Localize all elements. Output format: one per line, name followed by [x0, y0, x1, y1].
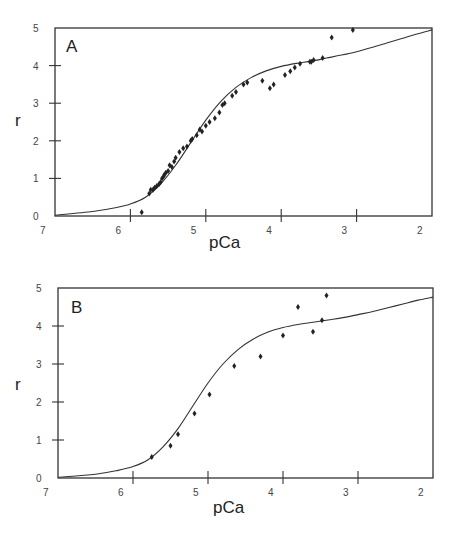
- x-tick-label: 2: [417, 225, 423, 236]
- x-tick-label: 6: [115, 225, 121, 236]
- x-tick-label: 4: [268, 487, 274, 498]
- data-point: [330, 34, 334, 40]
- fit-curve: [58, 297, 433, 477]
- data-point: [320, 317, 324, 323]
- x-axis-ticks: 765432: [43, 471, 424, 498]
- chart-panel-a: 012345 765432 A pCa r: [15, 23, 432, 252]
- y-axis-ticks: 012345: [36, 283, 64, 484]
- data-point: [150, 454, 154, 460]
- y-tick-label: 2: [36, 397, 42, 408]
- plot-frame: [58, 288, 433, 478]
- y-tick-label: 0: [33, 211, 39, 222]
- data-point: [176, 431, 180, 437]
- chart-panel-b: 012345 765432 B pCa r: [15, 283, 433, 517]
- x-tick-label: 5: [193, 487, 199, 498]
- y-tick-label: 1: [36, 435, 42, 446]
- data-point: [325, 293, 329, 299]
- x-tick-label: 3: [342, 225, 348, 236]
- x-tick-label: 5: [191, 225, 197, 236]
- x-tick-label: 3: [343, 487, 349, 498]
- data-point: [268, 85, 272, 91]
- y-tick-label: 5: [33, 23, 39, 34]
- data-point: [195, 132, 199, 138]
- data-points: [140, 27, 355, 215]
- x-tick-label: 6: [118, 487, 124, 498]
- y-tick-label: 1: [33, 173, 39, 184]
- x-axis-title: pCa: [209, 233, 241, 252]
- y-tick-label: 3: [36, 359, 42, 370]
- data-point: [259, 353, 263, 359]
- data-point: [234, 89, 238, 95]
- data-point: [260, 78, 264, 84]
- data-point: [272, 81, 276, 87]
- data-point: [208, 391, 212, 397]
- x-tick-label: 4: [266, 225, 272, 236]
- data-point: [283, 72, 287, 78]
- data-point: [208, 119, 212, 125]
- data-point: [204, 123, 208, 129]
- data-point: [288, 68, 292, 74]
- y-axis-title: r: [15, 375, 21, 394]
- figure: 012345 765432 A pCa r 012345 765432 B pC…: [0, 0, 454, 534]
- data-point: [293, 64, 297, 70]
- data-point: [242, 81, 246, 87]
- x-tick-label: 7: [43, 487, 49, 498]
- y-tick-label: 2: [33, 136, 39, 147]
- fit-curve: [55, 30, 432, 215]
- data-point: [230, 93, 234, 99]
- y-axis-title: r: [15, 111, 21, 130]
- plot-frame: [55, 28, 432, 216]
- data-point: [217, 110, 221, 116]
- data-point: [193, 410, 197, 416]
- data-point: [321, 55, 325, 61]
- y-tick-label: 3: [33, 98, 39, 109]
- data-point: [296, 304, 300, 310]
- data-point: [298, 61, 302, 67]
- data-point: [213, 115, 217, 121]
- x-tick-label: 2: [418, 487, 424, 498]
- data-point: [169, 443, 173, 449]
- data-point: [281, 333, 285, 339]
- data-point: [140, 209, 144, 215]
- data-point: [185, 143, 189, 149]
- data-point: [311, 329, 315, 335]
- y-tick-label: 5: [36, 283, 42, 294]
- panel-label: A: [66, 37, 78, 56]
- x-axis-ticks: 765432: [40, 209, 423, 236]
- x-axis-title: pCa: [213, 498, 245, 517]
- y-axis-ticks: 012345: [33, 23, 61, 222]
- data-points: [150, 293, 329, 461]
- data-point: [177, 149, 181, 155]
- x-tick-label: 7: [40, 225, 46, 236]
- data-point: [232, 363, 236, 369]
- panel-label: B: [71, 298, 82, 317]
- y-tick-label: 4: [36, 321, 42, 332]
- y-tick-label: 4: [33, 61, 39, 72]
- y-tick-label: 0: [36, 473, 42, 484]
- data-point: [181, 145, 185, 151]
